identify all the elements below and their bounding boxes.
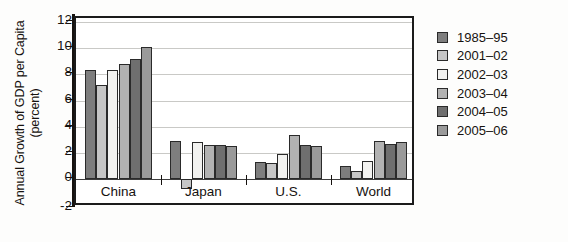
y-tick-mark-4 (66, 125, 73, 126)
legend-item[interactable]: 2004–05 (437, 102, 565, 121)
bar-chart-figure: Annual Growth of GDP per Capita (percent… (0, 0, 568, 242)
legend: 1985–952001–022002–032003–042004–052005–… (437, 28, 565, 140)
legend-item[interactable]: 2002–03 (437, 65, 565, 84)
category-divider (331, 175, 332, 185)
category-axis-band: ChinaJapanU.S.World (76, 175, 412, 203)
y-tick-mark-12 (66, 20, 73, 21)
gridline-10 (76, 48, 412, 49)
legend-item-label: 2001–02 (457, 48, 508, 63)
legend-item-label: 2005–06 (457, 123, 508, 138)
category-label-china: China (76, 184, 161, 199)
y-tick-mark-6 (66, 99, 73, 100)
legend-swatch-icon (437, 125, 448, 136)
bar (385, 144, 396, 179)
bar (396, 142, 407, 179)
bar (85, 70, 96, 179)
legend-swatch-icon (437, 88, 448, 99)
category-label-us: U.S. (246, 184, 331, 199)
bar (141, 47, 152, 179)
plot-area: ChinaJapanU.S.World (74, 16, 414, 205)
bar (130, 59, 141, 179)
legend-item[interactable]: 2001–02 (437, 47, 565, 66)
y-axis-title-container: Annual Growth of GDP per Capita (percent… (0, 0, 42, 242)
bar (289, 135, 300, 179)
legend-swatch-icon (437, 69, 448, 80)
category-label-world: World (331, 184, 414, 199)
legend-swatch-icon (437, 50, 448, 61)
legend-item[interactable]: 2005–06 (437, 121, 565, 140)
legend-item[interactable]: 1985–95 (437, 28, 565, 47)
bar (204, 145, 215, 179)
bar (96, 85, 107, 179)
category-label-japan: Japan (161, 184, 246, 199)
bar (374, 141, 385, 179)
y-tick-mark-10 (66, 46, 73, 47)
legend-item-label: 2002–03 (457, 67, 508, 82)
y-tick-mark-2 (66, 151, 73, 152)
category-divider (161, 175, 162, 185)
y-tick-mark-0 (66, 177, 73, 178)
legend-item[interactable]: 2003–04 (437, 84, 565, 103)
legend-item-label: 2003–04 (457, 86, 508, 101)
bar (107, 70, 118, 179)
bar (119, 64, 130, 179)
y-tick-mark--2 (66, 206, 73, 207)
legend-item-label: 2004–05 (457, 104, 508, 119)
legend-item-label: 1985–95 (457, 30, 508, 45)
gridline-12 (76, 22, 412, 23)
bar (192, 142, 203, 179)
bar (170, 141, 181, 179)
bar (300, 145, 311, 179)
category-divider (246, 175, 247, 185)
legend-swatch-icon (437, 32, 448, 43)
bar (215, 145, 226, 179)
y-tick-mark-8 (66, 72, 73, 73)
legend-swatch-icon (437, 106, 448, 117)
